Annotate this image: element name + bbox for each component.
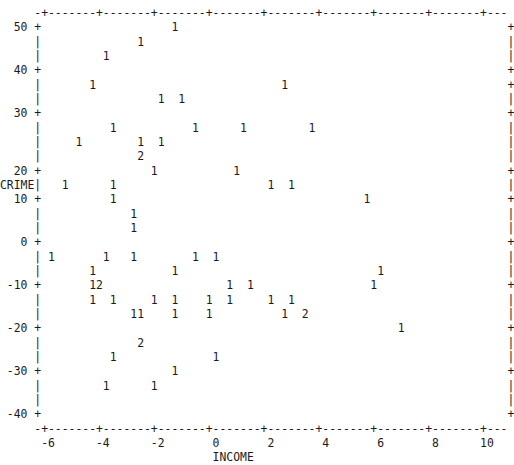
ascii-scatter-canvas: -+-------+-------+-------+-------+------… <box>0 0 514 465</box>
